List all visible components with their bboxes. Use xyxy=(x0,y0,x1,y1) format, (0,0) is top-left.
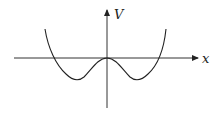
v-axis-label: V xyxy=(114,7,125,22)
potential-diagram: V x xyxy=(0,0,220,114)
potential-curve xyxy=(45,29,166,80)
x-axis-label: x xyxy=(202,51,210,66)
